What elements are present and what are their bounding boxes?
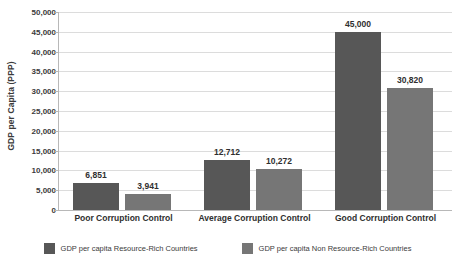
bar-value-label: 3,941 <box>137 181 158 191</box>
y-axis-tick-label: 0 <box>20 206 56 215</box>
y-axis-tickmark <box>55 210 59 211</box>
bar-value-label: 6,851 <box>85 170 106 180</box>
y-axis-tick-label: 15,000 <box>20 146 56 155</box>
y-axis-tick-labels: 05,00010,00015,00020,00025,00030,00035,0… <box>20 12 56 210</box>
x-axis-category-label: Poor Corruption Control <box>58 213 189 223</box>
y-axis-tick-label: 30,000 <box>20 87 56 96</box>
bars-layer: 6,8513,94112,71210,27245,00030,820 <box>59 12 452 210</box>
y-axis-tick-label: 45,000 <box>20 27 56 36</box>
bar-value-label: 10,272 <box>266 156 292 166</box>
bar[interactable] <box>73 183 119 210</box>
bar-value-label: 30,820 <box>397 75 423 85</box>
x-axis-category-label: Average Corruption Control <box>189 213 320 223</box>
y-axis-tick-label: 35,000 <box>20 67 56 76</box>
y-axis-tick-label: 10,000 <box>20 166 56 175</box>
bar-value-label: 45,000 <box>345 19 371 29</box>
bar-chart: GDP per Capita (PPP) 05,00010,00015,0002… <box>0 0 455 265</box>
y-axis-tick-label: 25,000 <box>20 107 56 116</box>
y-axis-tick-label: 5,000 <box>20 186 56 195</box>
bar[interactable] <box>335 32 381 210</box>
y-axis-tick-label: 40,000 <box>20 47 56 56</box>
bar[interactable] <box>256 169 302 210</box>
legend-label: GDP per capita Non Resource-Rich Countri… <box>259 244 412 253</box>
x-axis-category-label: Good Corruption Control <box>320 213 451 223</box>
y-axis-tick-label: 50,000 <box>20 8 56 17</box>
legend-item[interactable]: GDP per capita Non Resource-Rich Countri… <box>242 243 412 254</box>
bar[interactable] <box>387 88 433 210</box>
legend-color-swatch <box>44 243 55 254</box>
bar[interactable] <box>125 194 171 210</box>
bar-group: 6,8513,941 <box>59 12 190 210</box>
bar[interactable] <box>204 160 250 210</box>
bar-group: 12,71210,272 <box>190 12 321 210</box>
y-axis-title: GDP per Capita (PPP) <box>0 0 22 212</box>
x-axis-category-labels: Poor Corruption ControlAverage Corruptio… <box>58 213 451 229</box>
plot-area: 6,8513,94112,71210,27245,00030,820 <box>58 12 452 211</box>
legend-color-swatch <box>242 243 253 254</box>
bar-group: 45,00030,820 <box>321 12 452 210</box>
bar-value-label: 12,712 <box>214 147 240 157</box>
legend-item[interactable]: GDP per capita Resource-Rich Countries <box>44 243 198 254</box>
legend-label: GDP per capita Resource-Rich Countries <box>61 244 198 253</box>
y-axis-tick-label: 20,000 <box>20 126 56 135</box>
y-axis-title-label: GDP per Capita (PPP) <box>6 61 16 150</box>
chart-legend: GDP per capita Resource-Rich CountriesGD… <box>0 238 455 258</box>
